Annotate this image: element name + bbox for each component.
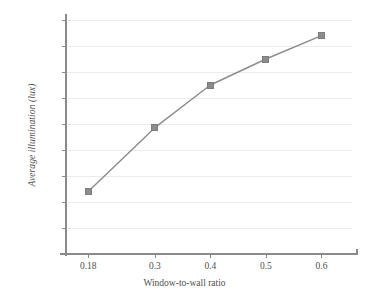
x-axis-tick-label: 0.3 (125, 261, 185, 271)
x-axis-end-cap (356, 249, 358, 255)
y-axis-title: Average illumination (lux) (27, 35, 37, 235)
data-point-marker (262, 56, 269, 63)
chart-figure: Average illumination (lux) Window-to-wal… (0, 0, 369, 301)
data-point-marker (207, 82, 214, 89)
plot-area: 050100150200250300350400450 0.180.30.40.… (66, 20, 352, 254)
x-axis-tick-label: 0.18 (58, 261, 118, 271)
series-line (66, 20, 352, 254)
data-point-marker (151, 124, 158, 131)
x-axis-tick-label: 0.6 (291, 261, 351, 271)
x-axis-spine (60, 253, 358, 255)
x-axis-title: Window-to-wall ratio (0, 278, 369, 288)
data-point-marker (318, 32, 325, 39)
x-axis-tick-label: 0.5 (236, 261, 296, 271)
y-axis-spine (65, 14, 67, 256)
x-axis-tick-label: 0.4 (180, 261, 240, 271)
data-point-marker (85, 188, 92, 195)
